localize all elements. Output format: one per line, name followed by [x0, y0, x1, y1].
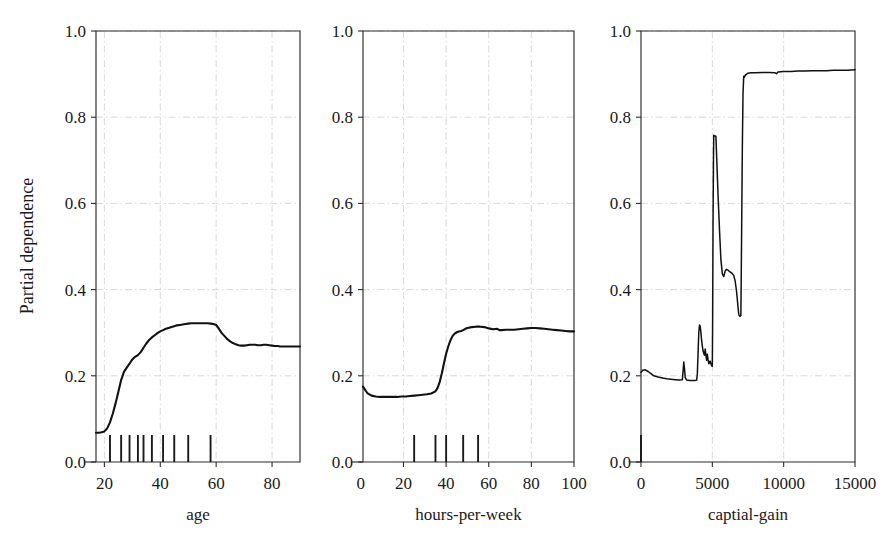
plot-frame: [641, 31, 855, 462]
pd-curve: [363, 327, 574, 397]
pd-curve: [96, 323, 300, 432]
y-tick-label: 0.0: [332, 453, 353, 472]
x-tick-label: 15000: [834, 474, 877, 493]
y-tick-label: 1.0: [610, 22, 631, 41]
x-tick-label: 0: [357, 474, 366, 493]
y-tick-label: 1.0: [65, 22, 86, 41]
x-tick-label: 20: [395, 474, 412, 493]
y-tick-label: 0.8: [332, 108, 353, 127]
plot-frame: [96, 31, 300, 462]
x-tick-label: 5000: [695, 474, 729, 493]
x-tick-label: 0: [637, 474, 646, 493]
x-axis-label: captial-gain: [708, 505, 789, 524]
y-tick-label: 0.0: [65, 453, 86, 472]
panel-captial-gain: 0.00.20.40.60.81.0050001000015000captial…: [610, 22, 877, 524]
pd-curve: [641, 70, 855, 381]
partial-dependence-figure: Partial dependence 0.00.20.40.60.81.0204…: [0, 0, 886, 535]
y-tick-label: 0.2: [332, 367, 353, 386]
y-tick-label: 0.2: [65, 367, 86, 386]
x-axis-label: hours-per-week: [415, 505, 522, 524]
y-tick-label: 0.4: [610, 281, 632, 300]
x-tick-label: 100: [561, 474, 587, 493]
y-tick-label: 0.4: [332, 281, 354, 300]
y-tick-label: 1.0: [332, 22, 353, 41]
y-tick-label: 0.8: [65, 108, 86, 127]
y-tick-label: 0.2: [610, 367, 631, 386]
x-axis-label: age: [186, 505, 210, 524]
y-tick-label: 0.6: [65, 194, 86, 213]
y-tick-label: 0.0: [610, 453, 631, 472]
y-tick-label: 0.4: [65, 281, 87, 300]
panel-age: 0.00.20.40.60.81.020406080age: [65, 22, 300, 524]
panel-hours-per-week: 0.00.20.40.60.81.0020406080100hours-per-…: [332, 22, 587, 524]
y-tick-label: 0.6: [332, 194, 353, 213]
x-tick-label: 10000: [762, 474, 805, 493]
x-tick-label: 60: [208, 474, 225, 493]
x-tick-label: 40: [438, 474, 455, 493]
y-axis-label: Partial dependence: [17, 178, 37, 314]
x-tick-label: 80: [523, 474, 540, 493]
y-tick-label: 0.8: [610, 108, 631, 127]
x-tick-label: 60: [480, 474, 497, 493]
x-tick-label: 80: [264, 474, 281, 493]
figure-canvas: Partial dependence 0.00.20.40.60.81.0204…: [0, 0, 886, 535]
x-tick-label: 40: [152, 474, 169, 493]
x-tick-label: 20: [96, 474, 113, 493]
y-tick-label: 0.6: [610, 194, 631, 213]
